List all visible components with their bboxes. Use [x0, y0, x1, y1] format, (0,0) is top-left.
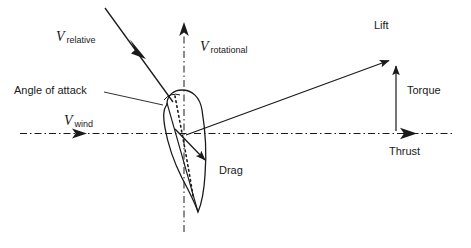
- angle-of-attack-label: Angle of attack: [14, 85, 87, 96]
- lift-label: Lift: [374, 20, 389, 31]
- v-relative-vector: [105, 8, 173, 102]
- airfoil-shape: [164, 90, 206, 212]
- v-rotational-symbol: V: [200, 39, 209, 54]
- v-wind-symbol: V: [64, 113, 73, 128]
- v-wind-subscript: wind: [75, 119, 94, 129]
- v-wind-label: Vwind: [64, 112, 93, 128]
- drag-label: Drag: [219, 165, 243, 176]
- v-wind-axis: [20, 128, 452, 139]
- thrust-label: Thrust: [389, 146, 420, 157]
- v-rotational-arrowhead: [179, 22, 189, 36]
- v-relative-arrowhead: [130, 40, 146, 60]
- torque-label: Torque: [407, 85, 441, 96]
- v-rotational-subscript: rotational: [211, 45, 248, 55]
- airfoil-force-diagram: Vrelative Vrotational Vwind Angle of att…: [0, 0, 471, 248]
- v-rotational-label: Vrotational: [200, 38, 248, 54]
- lift-vector: [186, 61, 389, 136]
- angle-of-attack-leader: [104, 92, 163, 105]
- v-relative-subscript: relative: [67, 35, 96, 45]
- v-relative-symbol: V: [56, 29, 65, 44]
- angle-of-attack-arc: [164, 94, 180, 100]
- v-relative-label: Vrelative: [56, 28, 96, 44]
